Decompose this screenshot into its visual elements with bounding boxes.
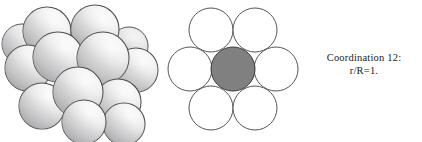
sphere-bottom-right — [103, 103, 145, 142]
caption-line-coordination: Coordination 12: — [306, 52, 422, 65]
neighbour-circle-left — [168, 47, 212, 91]
neighbour-circle-right — [254, 47, 298, 91]
central-atom-circle — [211, 47, 255, 91]
coordination-figure: Coordination 12: r/R=1. — [0, 0, 422, 142]
hexagonal-coordination-panel — [165, 0, 305, 142]
hexagonal-coordination-diagram — [165, 0, 305, 142]
caption-panel: Coordination 12: r/R=1. — [306, 0, 422, 142]
neighbour-circle-top-left — [189, 8, 233, 52]
sphere-cluster-illustration — [0, 0, 170, 142]
neighbour-circle-bottom-right — [233, 86, 277, 130]
sphere-cluster-panel — [0, 0, 170, 142]
caption-line-ratio: r/R=1. — [306, 65, 422, 78]
neighbour-circle-top-right — [233, 8, 277, 52]
sphere-bottom-mid — [62, 100, 106, 142]
neighbour-circle-bottom-left — [189, 86, 233, 130]
coordination-caption: Coordination 12: r/R=1. — [306, 52, 422, 77]
